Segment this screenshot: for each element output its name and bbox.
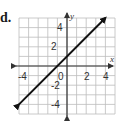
coordinate-plane: x y -4 0 2 4 4 2 -2 -4: [0, 0, 121, 123]
x-tick-2: 2: [84, 71, 90, 82]
y-tick-2: 2: [51, 41, 57, 52]
y-tick-neg2: -2: [51, 80, 60, 91]
y-tick-4: 4: [57, 22, 63, 33]
y-axis-label: y: [69, 11, 74, 21]
x-axis-label: x: [109, 54, 114, 64]
x-tick-neg4: -4: [18, 71, 27, 82]
y-tick-neg4: -4: [51, 99, 60, 110]
x-tick-4: 4: [103, 71, 109, 82]
